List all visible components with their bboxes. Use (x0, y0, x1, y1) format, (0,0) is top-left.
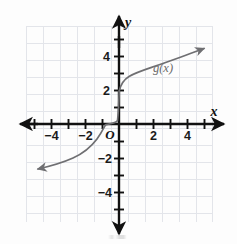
graph-figure: −4 −2 2 4 4 2 −2 −4 O x y g(x) (0, 0, 237, 244)
x-axis-label: x (210, 104, 218, 119)
y-axis-label: y (123, 15, 132, 30)
x-tick-label-neg2: −2 (78, 129, 92, 143)
origin-label: O (105, 127, 115, 142)
page-edge-artifact (108, 235, 130, 239)
curve-label: g(x) (153, 61, 173, 75)
x-tick-label-neg4: −4 (44, 129, 58, 143)
y-tick-label-2: 2 (103, 84, 110, 98)
y-tick-label-neg2: −2 (98, 152, 112, 166)
coordinate-plane: −4 −2 2 4 4 2 −2 −4 O x y g(x) (0, 0, 237, 244)
y-tick-label-4: 4 (103, 50, 110, 64)
y-tick-label-neg4: −4 (98, 186, 112, 200)
x-tick-label-4: 4 (184, 129, 191, 143)
x-tick-label-2: 2 (150, 129, 157, 143)
